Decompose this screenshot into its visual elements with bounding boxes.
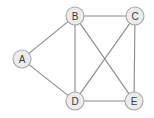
node-label-c: C [131,11,138,22]
node-label-b: B [72,11,79,22]
graph-node-c: C [126,7,144,25]
edge-layer [29,16,135,101]
node-label-d: D [71,96,78,107]
graph-edge-a-b [29,22,68,54]
graph-node-a: A [13,50,31,68]
graph-diagram: ABCDE [0,0,154,118]
node-layer: ABCDE [13,7,144,110]
node-label-a: A [19,54,26,65]
graph-node-b: B [66,7,84,25]
graph-node-e: E [125,92,143,110]
graph-canvas: ABCDE [0,0,154,118]
graph-edge-a-d [29,65,68,96]
graph-node-d: D [66,92,84,110]
graph-edge-c-e [134,25,135,92]
node-label-e: E [131,96,138,107]
